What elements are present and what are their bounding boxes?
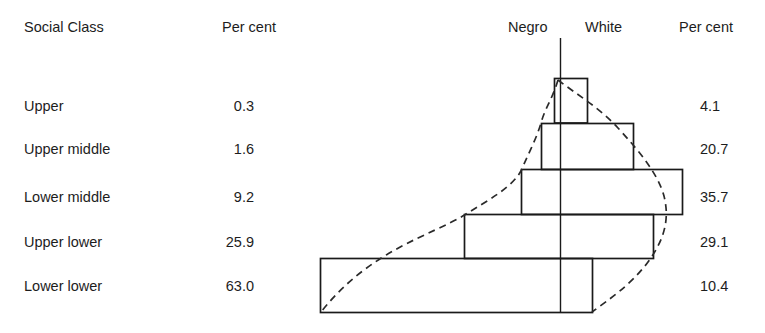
bar-upper-lower [465, 215, 654, 259]
population-pyramid-diagram [0, 0, 765, 333]
bar-upper-middle [542, 124, 634, 170]
negro-distribution-curve [321, 80, 558, 312]
white-distribution-curve [558, 80, 666, 312]
bar-lower-lower [321, 259, 593, 313]
bar-upper [555, 79, 588, 124]
chart-page: Social Class Per cent Negro White Per ce… [0, 0, 765, 333]
bar-lower-middle [522, 170, 683, 215]
